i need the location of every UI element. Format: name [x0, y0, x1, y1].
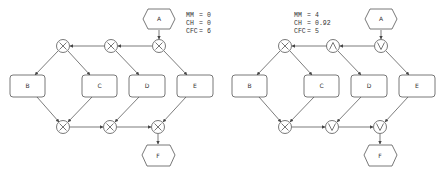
- event-a: A: [365, 9, 397, 29]
- equals: =: [307, 20, 311, 27]
- equals: =: [307, 12, 311, 19]
- or-gateway-icon: [374, 121, 387, 134]
- equals: =: [199, 20, 203, 27]
- left-diagram: A F B C D E MM = 0 CH = 0 CFC = 6: [10, 9, 213, 166]
- event-f: F: [364, 145, 397, 166]
- task-d: D: [129, 75, 165, 97]
- task-d: D: [351, 75, 387, 97]
- process-model-comparison: A F B C D E MM = 0 CH = 0 CFC = 6: [0, 0, 447, 174]
- metrics-right: MM = 4 CH = 0.92 CFC = 5: [294, 12, 331, 35]
- equals: =: [307, 28, 311, 35]
- metric-mm-value: 4: [315, 12, 319, 19]
- and-gateway-icon: [327, 40, 340, 53]
- metric-cfc-name: CFC: [294, 28, 306, 35]
- metric-mm-value: 0: [207, 12, 211, 19]
- event-f: F: [142, 145, 175, 166]
- metric-mm-name: MM: [186, 12, 194, 19]
- metric-ch-value: 0: [207, 20, 211, 27]
- metric-ch-name: CH: [186, 20, 194, 27]
- xor-gateway-icon: [104, 121, 117, 134]
- task-e-label: E: [193, 82, 197, 89]
- task-e: E: [399, 75, 435, 97]
- event-f-label: F: [378, 152, 382, 159]
- right-diagram: A F B C D E MM = 4 CH = 0.92 CFC =: [232, 9, 435, 166]
- equals: =: [199, 12, 203, 19]
- task-c-label: C: [97, 82, 101, 89]
- xor-gateway-icon: [153, 40, 166, 53]
- xor-gateway-icon: [105, 40, 118, 53]
- task-b-label: B: [247, 82, 251, 89]
- task-e: E: [177, 75, 213, 97]
- task-d-label: D: [367, 82, 372, 89]
- event-f-label: F: [156, 152, 160, 159]
- or-gateway-icon: [375, 40, 388, 53]
- equals: =: [199, 28, 203, 35]
- task-c: C: [82, 75, 117, 97]
- xor-gateway-icon: [279, 40, 292, 53]
- metric-ch-value: 0.92: [315, 20, 331, 27]
- task-c-label: C: [319, 82, 323, 89]
- task-d-label: D: [145, 82, 150, 89]
- metric-ch-name: CH: [294, 20, 302, 27]
- or-gateway-icon: [326, 121, 339, 134]
- task-c: C: [304, 75, 339, 97]
- xor-gateway-icon: [152, 121, 165, 134]
- metric-cfc-name: CFC: [186, 28, 198, 35]
- task-b: B: [232, 75, 267, 97]
- xor-gateway-icon: [279, 121, 292, 134]
- xor-gateway-icon: [57, 40, 70, 53]
- metric-cfc-value: 5: [315, 28, 319, 35]
- task-b: B: [10, 75, 45, 97]
- metric-mm-name: MM: [294, 12, 302, 19]
- xor-gateway-icon: [57, 121, 70, 134]
- task-e-label: E: [415, 82, 419, 89]
- task-b-label: B: [25, 82, 29, 89]
- metrics-left: MM = 0 CH = 0 CFC = 6: [186, 12, 211, 35]
- metric-cfc-value: 6: [207, 28, 211, 35]
- event-a: A: [143, 9, 175, 29]
